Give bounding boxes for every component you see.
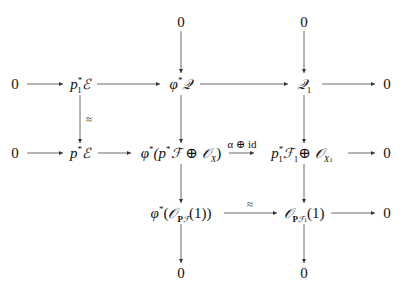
node-r3-O-PF1: 𝒪Pℱ1(1) (284, 206, 325, 221)
node-top-zero-col4: 0 (300, 15, 308, 30)
node-r2-p1-star-F1-sum: p*1ℱ1⊕ 𝒪X1 (271, 146, 332, 161)
node-r1-zero-left: 0 (11, 77, 19, 92)
node-r1-phi-star-Q: φ*𝒬 (170, 77, 193, 92)
node-r2-phi-star-sum: φ*(p*ℱ ⊕ 𝒪X) (141, 146, 221, 161)
node-r3-zero-right: 0 (383, 206, 391, 221)
node-r2-p-star-E: p*ℰ (70, 146, 90, 161)
node-r1-Q1: 𝒬1 (297, 77, 312, 92)
node-bottom-zero-col4: 0 (300, 266, 308, 281)
node-r3-phi-star-O-PF: φ*(𝒪Pℱ(1)) (151, 206, 212, 221)
label-alpha-oplus-id: α ⊕ id (227, 138, 256, 151)
node-r2-zero-right: 0 (383, 146, 391, 161)
label-vertical-iso: ≈ (86, 113, 92, 125)
node-r1-p1-star-E: p*1ℰ (70, 77, 90, 92)
node-r2-zero-left: 0 (11, 146, 19, 161)
node-bottom-zero-col3: 0 (177, 266, 185, 281)
node-r1-zero-right: 0 (383, 77, 391, 92)
node-top-zero-col3: 0 (177, 15, 185, 30)
label-horizontal-iso: ≈ (247, 198, 253, 210)
